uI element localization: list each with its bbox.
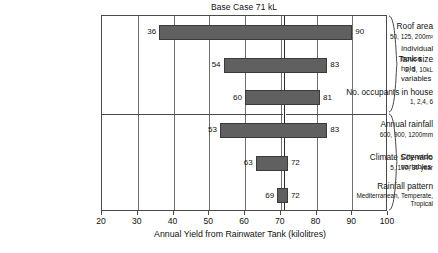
category-levels: 1, 2,4, 6 <box>338 98 433 105</box>
x-tick-label-80: 80 <box>311 216 321 226</box>
category-levels: 600, 900, 1200mm <box>338 131 433 138</box>
x-tick-90 <box>351 211 352 215</box>
bar-rainfall-pattern <box>277 188 288 203</box>
bar-low-value: 69 <box>265 192 277 200</box>
x-tick-label-90: 90 <box>346 216 356 226</box>
x-tick-100 <box>387 211 388 215</box>
category-name: No. occupants in house <box>338 88 433 98</box>
group-brace-1 <box>388 15 398 113</box>
category-name: Roof area <box>338 22 433 32</box>
category-levels: 50, 125, 200m² <box>338 33 433 40</box>
x-tick-label-70: 70 <box>275 216 285 226</box>
bar-annual-rainfall <box>220 123 327 138</box>
x-tick-80 <box>316 211 317 215</box>
gridline-80 <box>317 16 318 210</box>
x-tick-label-20: 20 <box>96 216 106 226</box>
gridline-90 <box>352 16 353 210</box>
bar-no-occupants-in-house <box>245 90 320 105</box>
x-axis-title-text: Annual Yield from Rainwater Tank (kiloli… <box>112 229 326 239</box>
bar-low-value: 54 <box>212 61 224 69</box>
gridline-40 <box>174 16 175 210</box>
category-name: Annual rainfall <box>338 120 433 130</box>
bar-roof-area <box>159 25 352 40</box>
gridline-60 <box>245 16 246 210</box>
bar-high-value: 72 <box>288 192 300 200</box>
x-tick-label-30: 30 <box>132 216 142 226</box>
base-case-line <box>283 16 286 210</box>
x-tick-30 <box>137 211 138 215</box>
bar-high-value: 81 <box>320 94 332 102</box>
category-name: Rainfall pattern <box>338 182 433 192</box>
x-tick-20 <box>101 211 102 215</box>
group-label-2: City-wide variables <box>401 152 432 172</box>
gridline-30 <box>138 16 139 210</box>
chart-title-text: Base Case 71 kL <box>161 2 277 12</box>
bar-low-value: 63 <box>244 159 256 167</box>
x-tick-label-40: 40 <box>168 216 178 226</box>
x-tick-label-50: 50 <box>203 216 213 226</box>
gridline-70 <box>281 16 282 210</box>
bar-high-value: 72 <box>288 159 300 167</box>
group-label-1: Individual house hold variables <box>401 44 438 83</box>
bar-low-value: 60 <box>233 94 245 102</box>
tornado-chart: Base Case 71 kL 369054836081538363726972… <box>0 0 438 253</box>
category-levels: Mediterranean, Temperate, Tropical <box>338 193 433 208</box>
bar-low-value: 53 <box>208 126 220 134</box>
x-tick-40 <box>173 211 174 215</box>
x-axis-title: Annual Yield from Rainwater Tank (kiloli… <box>0 229 438 239</box>
chart-title: Base Case 71 kL <box>0 2 438 12</box>
gridline-50 <box>209 16 210 210</box>
bar-tank-size <box>224 58 328 73</box>
bar-low-value: 36 <box>147 28 159 36</box>
x-tick-label-60: 60 <box>239 216 249 226</box>
group-divider <box>102 114 386 115</box>
x-tick-label-100: 100 <box>380 216 394 226</box>
x-tick-50 <box>208 211 209 215</box>
bar-climate-scenario <box>256 156 288 171</box>
x-tick-70 <box>280 211 281 215</box>
x-tick-60 <box>244 211 245 215</box>
group-brace-2 <box>388 113 398 211</box>
